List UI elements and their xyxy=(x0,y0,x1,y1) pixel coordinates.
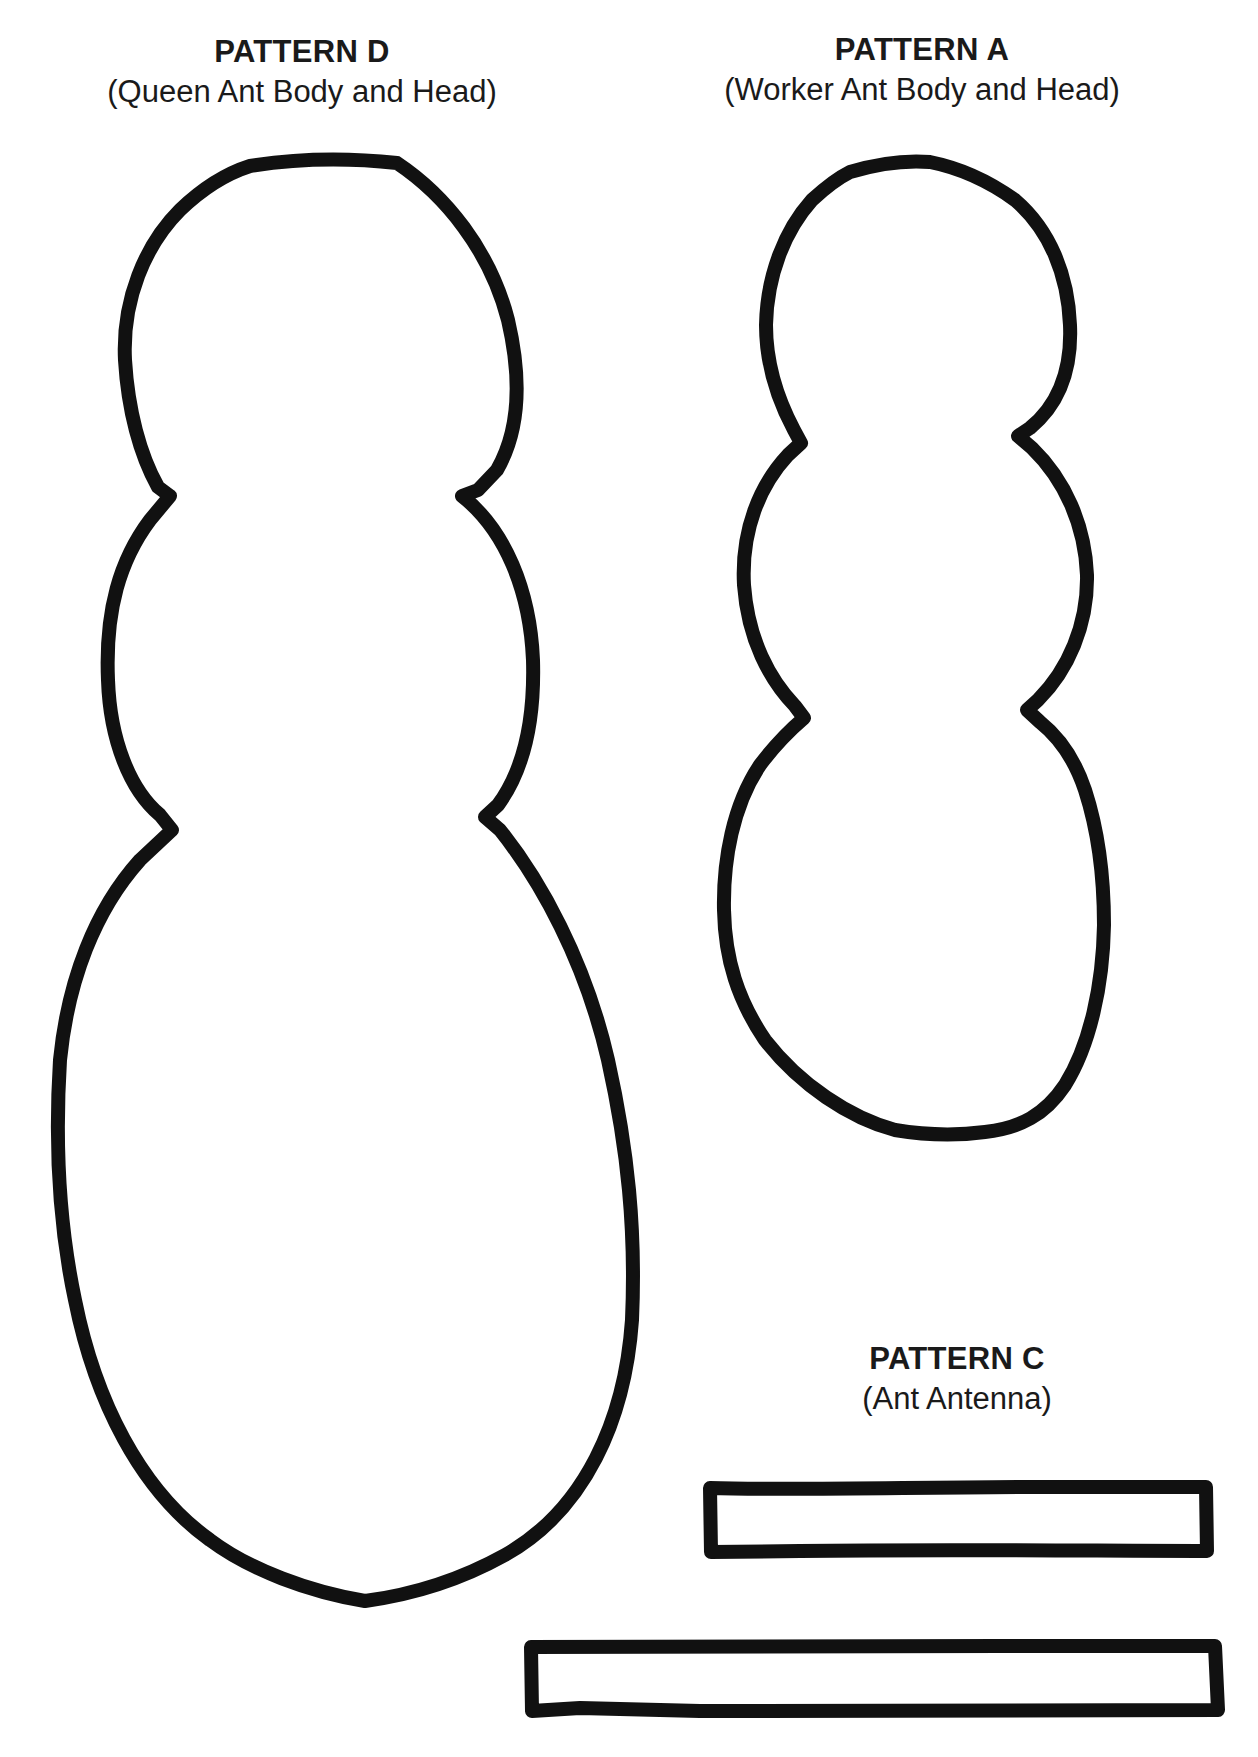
antenna-rectangle-2 xyxy=(531,1646,1218,1711)
worker-ant-body-outline xyxy=(724,161,1104,1134)
pattern-shapes xyxy=(0,0,1258,1757)
queen-ant-body-outline xyxy=(58,160,633,1601)
antenna-rectangle-1 xyxy=(710,1487,1207,1552)
